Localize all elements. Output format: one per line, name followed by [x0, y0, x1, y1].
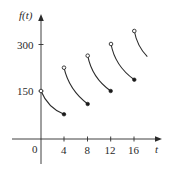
segment-3 — [88, 56, 111, 91]
y-tick-label-300: 300 — [17, 39, 34, 51]
segment-1 — [41, 91, 64, 114]
open-point-marker — [86, 54, 90, 58]
open-point-marker — [62, 66, 66, 70]
markers — [39, 29, 136, 116]
origin-label: 0 — [32, 143, 38, 155]
y-axis-label: f(t) — [19, 9, 33, 22]
open-point-marker — [133, 29, 137, 33]
y-tick-label-150: 150 — [17, 85, 34, 97]
x-tick-label-4: 4 — [61, 144, 67, 156]
open-point-marker — [109, 42, 113, 46]
filled-point-marker — [62, 113, 66, 117]
x-axis-arrow-icon — [155, 136, 162, 142]
curve-segments — [41, 31, 147, 114]
x-tick-label-8: 8 — [85, 144, 91, 156]
segment-5 — [134, 31, 147, 57]
y-axis-arrow-icon — [38, 14, 44, 21]
x-axis-label: t — [155, 143, 159, 155]
x-tick-label-12: 12 — [105, 144, 116, 156]
axes — [12, 14, 162, 164]
segment-4 — [111, 44, 134, 80]
filled-point-marker — [109, 89, 113, 93]
segment-2 — [64, 68, 88, 104]
x-tick-label-16: 16 — [128, 144, 140, 156]
filled-point-marker — [86, 102, 90, 106]
open-point-marker — [39, 89, 43, 93]
sawtooth-chart: f(t) t 0 4 8 12 16 300 150 — [0, 0, 169, 170]
filled-point-marker — [133, 78, 137, 82]
